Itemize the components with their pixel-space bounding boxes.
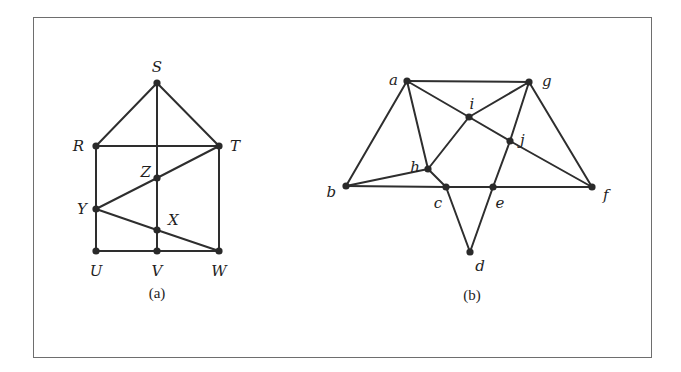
vertex-h bbox=[424, 165, 431, 172]
vertex-R bbox=[92, 142, 99, 149]
vertex-W bbox=[215, 247, 222, 254]
edge-b-c bbox=[346, 186, 446, 187]
vertex-label-g: g bbox=[542, 72, 552, 90]
vertex-label-c: c bbox=[434, 194, 443, 212]
vertex-label-h: h bbox=[410, 158, 420, 176]
edge-c-d bbox=[446, 187, 470, 252]
edge-a-h bbox=[407, 81, 428, 169]
edge-S-T bbox=[157, 83, 219, 146]
vertex-f bbox=[588, 183, 595, 190]
vertex-label-d: d bbox=[475, 257, 485, 275]
vertex-V bbox=[153, 247, 160, 254]
caption-b: (b) bbox=[463, 287, 481, 304]
edge-a-i bbox=[407, 81, 469, 117]
vertex-label-f: f bbox=[602, 186, 611, 204]
vertex-label-U: U bbox=[90, 262, 104, 280]
vertex-j bbox=[506, 137, 513, 144]
vertex-label-R: R bbox=[72, 137, 84, 155]
vertex-c bbox=[442, 183, 449, 190]
edge-e-d bbox=[470, 187, 493, 252]
edge-Z-Y bbox=[96, 178, 157, 209]
edge-j-e bbox=[493, 141, 510, 187]
edge-i-h bbox=[428, 117, 469, 169]
edge-h-c bbox=[428, 169, 446, 187]
graph-a: SRTZYXUVW (a) bbox=[72, 58, 241, 302]
vertex-d bbox=[466, 248, 473, 255]
vertex-X bbox=[153, 226, 160, 233]
vertex-label-W: W bbox=[211, 262, 228, 280]
vertex-label-i: i bbox=[470, 95, 475, 113]
graph-a-edges bbox=[96, 83, 219, 251]
graph-b: agihjbcefd (b) bbox=[326, 71, 611, 304]
vertex-S bbox=[153, 79, 160, 86]
vertex-label-Y: Y bbox=[77, 200, 89, 218]
vertex-label-X: X bbox=[167, 211, 180, 229]
vertex-b bbox=[342, 182, 349, 189]
vertex-label-S: S bbox=[152, 58, 162, 76]
caption-a: (a) bbox=[149, 285, 166, 302]
vertex-label-e: e bbox=[496, 194, 505, 212]
vertex-label-Z: Z bbox=[140, 163, 152, 181]
vertex-label-b: b bbox=[326, 183, 336, 201]
vertex-Z bbox=[153, 174, 160, 181]
edge-a-b bbox=[346, 81, 407, 186]
edge-i-j bbox=[469, 117, 510, 141]
vertex-label-a: a bbox=[389, 71, 398, 89]
edge-S-R bbox=[96, 83, 157, 146]
vertex-T bbox=[215, 142, 222, 149]
vertex-i bbox=[465, 113, 472, 120]
vertex-a bbox=[403, 77, 410, 84]
edge-g-f bbox=[529, 82, 592, 187]
edge-T-Z bbox=[157, 146, 219, 178]
vertex-U bbox=[92, 247, 99, 254]
vertex-e bbox=[489, 183, 496, 190]
edge-Y-X bbox=[96, 209, 157, 230]
vertex-label-V: V bbox=[152, 262, 165, 280]
edge-X-W bbox=[157, 230, 219, 251]
vertex-Y bbox=[92, 205, 99, 212]
edge-a-g bbox=[407, 81, 529, 82]
graph-figure: SRTZYXUVW (a) agihjbcefd (b) bbox=[0, 0, 681, 372]
vertex-label-T: T bbox=[230, 137, 241, 155]
vertex-g bbox=[525, 78, 532, 85]
